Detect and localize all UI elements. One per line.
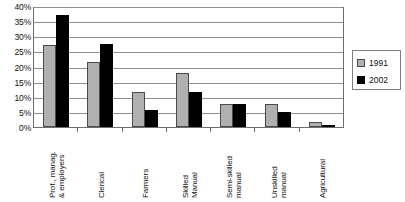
bar-1991	[309, 122, 322, 127]
bar-group	[34, 6, 78, 127]
legend-label: 1991	[369, 59, 388, 68]
black-swatch	[357, 76, 365, 84]
bar-1991	[132, 92, 145, 127]
bar-chart: 0%5%10%15%20%25%30%35%40% Prof., manag. …	[0, 0, 405, 202]
x-axis-tick	[210, 128, 211, 132]
bar-2002	[278, 112, 291, 127]
y-axis-tick-label: 30%	[0, 33, 31, 42]
y-axis-labels: 0%5%10%15%20%25%30%35%40%	[0, 0, 31, 202]
bar-1991	[176, 73, 189, 127]
plot-right-border	[343, 7, 344, 128]
y-axis-tick-label: 15%	[0, 79, 31, 88]
bar-2002	[145, 110, 158, 127]
bar-1991	[265, 104, 278, 127]
y-axis-tick-label: 10%	[0, 94, 31, 103]
y-axis-tick-label: 20%	[0, 64, 31, 73]
bar-group	[78, 6, 122, 127]
y-axis-tick-label: 0%	[0, 124, 31, 133]
bar-group	[211, 6, 255, 127]
legend-label: 2002	[369, 76, 388, 85]
x-axis-category-label: Farmers	[141, 128, 150, 198]
x-axis-category-label: Skilled Manual	[181, 128, 199, 198]
bar-1991	[220, 104, 233, 127]
x-axis-tick	[122, 128, 123, 132]
x-axis-tick	[254, 128, 255, 132]
y-axis-tick-label: 40%	[0, 3, 31, 12]
y-axis-tick-label: 25%	[0, 48, 31, 57]
bar-2002	[322, 125, 335, 127]
legend-entry: 1991	[357, 57, 388, 69]
gray-swatch	[357, 59, 365, 67]
bar-2002	[56, 15, 69, 127]
bar-group	[255, 6, 299, 127]
chart-legend: 19912002	[352, 50, 401, 90]
y-axis-tick-label: 35%	[0, 18, 31, 27]
x-axis-tick	[77, 128, 78, 132]
plot-area	[33, 7, 343, 128]
bar-1991	[87, 62, 100, 127]
legend-entry: 2002	[357, 74, 388, 86]
x-axis-category-label: Agricultural	[318, 128, 327, 198]
x-axis-category-label: Clerical	[97, 128, 106, 198]
x-axis-tick	[299, 128, 300, 132]
y-axis-tick-label: 5%	[0, 109, 31, 118]
bar-group	[167, 6, 211, 127]
x-axis-category-label: Unskilled manual	[270, 128, 288, 198]
bar-1991	[43, 45, 56, 127]
bar-2002	[189, 92, 202, 127]
bar-2002	[100, 44, 113, 127]
x-axis-category-label: Prof., manag. & employers	[48, 128, 66, 198]
x-axis-category-label: Semi-skilled manual	[225, 128, 243, 198]
bar-group	[123, 6, 167, 127]
bar-group	[300, 6, 344, 127]
bar-2002	[233, 104, 246, 127]
x-axis-tick	[166, 128, 167, 132]
